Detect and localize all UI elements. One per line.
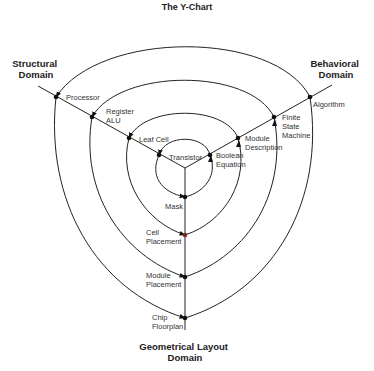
dot-cell-placement xyxy=(183,233,188,238)
chart-title: The Y-Chart xyxy=(162,2,212,12)
dot-leaf-cell xyxy=(127,136,132,141)
dot-chip-floorplan xyxy=(183,316,188,321)
dot-processor xyxy=(54,95,59,100)
dot-mask xyxy=(183,195,188,200)
label-mask: Mask xyxy=(165,202,183,211)
label-transistor: Transistor xyxy=(169,153,203,162)
label-register-alu: Register ALU xyxy=(106,107,136,125)
label-finite-state-machine: Finite State Machine xyxy=(282,113,310,140)
y-chart-diagram: The Y-Chart xyxy=(0,0,374,371)
structural-domain-label: Structural Domain xyxy=(12,58,60,80)
level-dots xyxy=(54,95,313,321)
label-leaf-cell: Leaf Cell xyxy=(139,135,169,144)
dot-finite-state-machine xyxy=(272,115,277,120)
level-2-arcs xyxy=(127,113,241,235)
dot-module-placement xyxy=(183,275,188,280)
dot-algorithm xyxy=(308,95,313,100)
label-boolean-equation: Boolean Equation xyxy=(216,151,246,169)
dot-transistor xyxy=(157,153,162,158)
level-1-arcs xyxy=(156,139,213,197)
dot-register-alu xyxy=(90,115,95,120)
dot-module-description xyxy=(236,136,241,141)
geometrical-domain-label: Geometrical Layout Domain xyxy=(139,341,230,363)
label-processor: Processor xyxy=(66,93,100,102)
label-cell-placement: Cell Placement xyxy=(146,228,182,246)
dot-boolean-equation xyxy=(208,153,213,158)
label-algorithm: Algorithm xyxy=(313,100,345,109)
behavioral-domain-label: Behavioral Domain xyxy=(310,58,361,80)
